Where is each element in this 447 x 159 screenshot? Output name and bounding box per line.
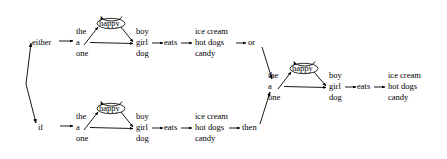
diagram-canvas: either if the a one happy boy girl dog e…: [0, 0, 447, 159]
word-one-1[interactable]: one: [76, 48, 88, 59]
node-object-3[interactable]: ice cream hot dogs candy: [388, 70, 421, 103]
word-boy-2[interactable]: boy: [136, 111, 149, 122]
node-adjective-2[interactable]: happy: [99, 103, 120, 114]
edge-happy3-to-noun3: [314, 72, 326, 86]
edge-start-to-either: [26, 43, 31, 84]
edge-det1-to-noun1: [90, 43, 133, 44]
word-a-3[interactable]: a: [268, 81, 280, 92]
node-adjective-1[interactable]: happy: [99, 18, 120, 29]
word-a-1[interactable]: a: [76, 37, 88, 48]
word-the-1[interactable]: the: [76, 26, 88, 37]
node-determiner-2[interactable]: the a one: [76, 111, 88, 144]
word-hot-dogs-1[interactable]: hot dogs: [195, 37, 228, 48]
node-determiner-3[interactable]: the a one: [268, 70, 280, 103]
edge-det2-to-noun2: [90, 128, 133, 129]
node-verb-2[interactable]: eats: [164, 122, 177, 133]
node-if[interactable]: if: [38, 122, 43, 133]
word-girl-3[interactable]: girl: [329, 81, 342, 92]
edge-happy1-to-noun1: [121, 27, 133, 42]
word-hot-dogs-2[interactable]: hot dogs: [195, 122, 228, 133]
node-verb-1[interactable]: eats: [164, 37, 177, 48]
edge-start-to-if: [26, 84, 36, 123]
word-candy-3[interactable]: candy: [388, 92, 421, 103]
node-adjective-3[interactable]: happy: [292, 63, 313, 74]
word-candy-2[interactable]: candy: [195, 133, 228, 144]
node-either[interactable]: either: [32, 37, 51, 48]
word-one-3[interactable]: one: [268, 92, 280, 103]
word-dog-3[interactable]: dog: [329, 92, 342, 103]
word-the-2[interactable]: the: [76, 111, 88, 122]
word-ice-cream-2[interactable]: ice cream: [195, 111, 228, 122]
word-dog-1[interactable]: dog: [136, 48, 149, 59]
word-boy-1[interactable]: boy: [136, 26, 149, 37]
word-dog-2[interactable]: dog: [136, 133, 149, 144]
edge-det3-to-noun3: [284, 87, 326, 88]
word-ice-cream-3[interactable]: ice cream: [388, 70, 421, 81]
node-then[interactable]: then: [242, 122, 257, 133]
node-noun-3[interactable]: boy girl dog: [329, 70, 342, 103]
word-a-2[interactable]: a: [76, 122, 88, 133]
word-boy-3[interactable]: boy: [329, 70, 342, 81]
node-object-2[interactable]: ice cream hot dogs candy: [195, 111, 228, 144]
node-or[interactable]: or: [248, 37, 255, 48]
word-candy-1[interactable]: candy: [195, 48, 228, 59]
word-hot-dogs-3[interactable]: hot dogs: [388, 81, 421, 92]
node-noun-2[interactable]: boy girl dog: [136, 111, 149, 144]
word-girl-1[interactable]: girl: [136, 37, 149, 48]
node-object-1[interactable]: ice cream hot dogs candy: [195, 26, 228, 59]
word-ice-cream-1[interactable]: ice cream: [195, 26, 228, 37]
word-one-2[interactable]: one: [76, 133, 88, 144]
word-girl-2[interactable]: girl: [136, 122, 149, 133]
node-verb-3[interactable]: eats: [357, 81, 370, 92]
node-noun-1[interactable]: boy girl dog: [136, 26, 149, 59]
node-determiner-1[interactable]: the a one: [76, 26, 88, 59]
edge-happy2-to-noun2: [121, 112, 133, 127]
word-the-3[interactable]: the: [268, 70, 280, 81]
